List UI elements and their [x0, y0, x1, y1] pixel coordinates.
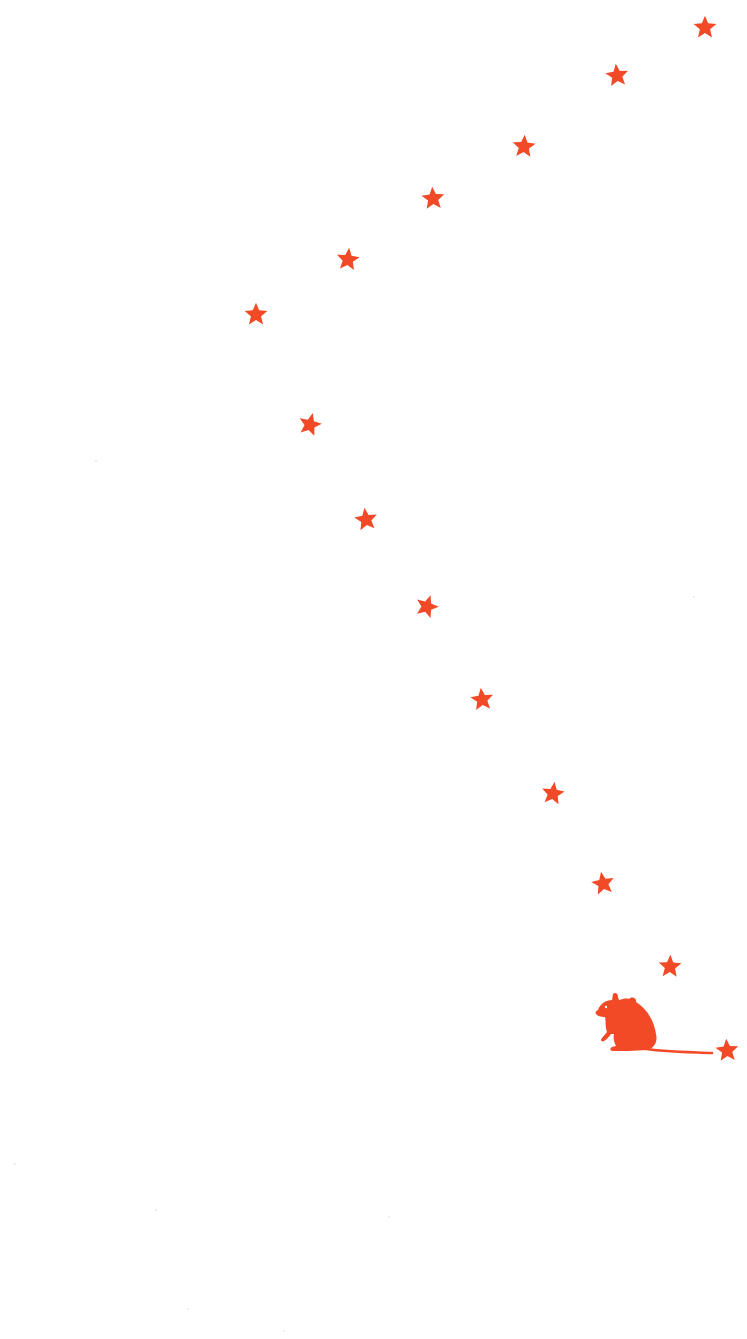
paper-speck: [14, 1163, 16, 1165]
star-icon: [603, 61, 632, 90]
paper-speck: [187, 1308, 189, 1310]
star-icon: [588, 868, 618, 898]
paper-speck: [693, 596, 695, 598]
star-icon: [713, 1036, 741, 1064]
star-icon: [411, 590, 444, 623]
illustration-canvas: [0, 0, 747, 1339]
paper-speck: [155, 1209, 157, 1211]
star-icon: [538, 778, 567, 807]
star-icon: [657, 953, 684, 980]
star-icon: [510, 132, 538, 160]
star-icon: [243, 301, 269, 327]
star-icon: [468, 685, 497, 714]
paper-speck: [95, 460, 97, 462]
star-icon: [351, 504, 380, 533]
mouse-icon: [592, 990, 714, 1060]
star-icon: [334, 245, 363, 274]
star-icon: [692, 14, 718, 40]
paper-speck: [283, 1330, 285, 1332]
star-icon: [419, 184, 447, 212]
paper-speck: [388, 1216, 390, 1218]
star-icon: [294, 408, 326, 440]
